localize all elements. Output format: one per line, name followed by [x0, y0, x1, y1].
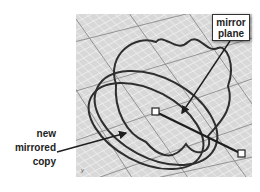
new-mirrored-copy-label: new mirrored copy [4, 127, 56, 169]
mirror-plane-leader [182, 41, 230, 113]
label-line: mirrored [4, 141, 56, 155]
new-copy-leader [57, 133, 126, 152]
label-line: new [4, 127, 56, 141]
y-axis-label: y [81, 167, 84, 173]
callout-line: mirror [213, 17, 249, 28]
label-line: copy [4, 155, 56, 169]
mirror-plane-callout: mirror plane [212, 14, 250, 41]
callout-line: plane [213, 28, 249, 39]
